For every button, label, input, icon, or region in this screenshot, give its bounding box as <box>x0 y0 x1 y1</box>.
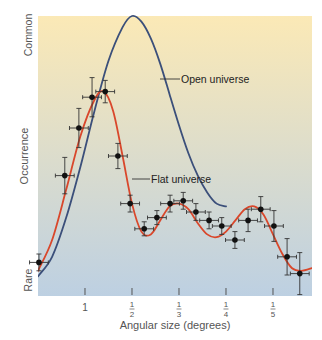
x-tick-label: 1 <box>82 302 88 313</box>
data-point-marker <box>115 153 121 159</box>
data-point-marker <box>206 218 212 224</box>
y-tick-label: Rare <box>22 268 34 291</box>
annotation-label-open-universe: Open universe <box>181 73 249 85</box>
data-point-marker <box>284 254 290 260</box>
data-point-marker <box>258 206 264 212</box>
x-axis-label: Angular size (degrees) <box>120 319 231 331</box>
y-axis-label: Occurrence <box>18 128 30 185</box>
annotation-label-flat-universe: Flat universe <box>151 173 211 185</box>
x-tick-label-numerator: 1 <box>271 300 276 309</box>
data-point-marker <box>232 237 238 243</box>
data-point-marker <box>167 201 173 207</box>
data-point-marker <box>62 173 68 179</box>
y-tick-label: Common <box>22 14 34 57</box>
data-point-marker <box>102 89 108 95</box>
data-point-marker <box>297 271 303 277</box>
data-point-marker <box>127 201 133 207</box>
plot-background <box>38 16 312 296</box>
data-point-marker <box>36 260 42 266</box>
x-tick-label-denominator: 4 <box>224 310 229 319</box>
data-point-marker <box>141 226 147 232</box>
x-tick-label-denominator: 3 <box>177 310 182 319</box>
x-tick-label-denominator: 5 <box>271 310 276 319</box>
data-point-marker <box>245 218 251 224</box>
x-tick-label-numerator: 1 <box>177 300 182 309</box>
data-point-marker <box>271 223 277 229</box>
data-point-marker <box>219 223 225 229</box>
x-tick-label-denominator: 2 <box>130 310 135 319</box>
data-point-marker <box>76 125 82 131</box>
data-point-marker <box>193 209 199 215</box>
x-tick-label-numerator: 1 <box>224 300 229 309</box>
data-point-marker <box>89 94 95 100</box>
chart: Open universeFlat universe 112131415 Rar… <box>0 0 322 340</box>
data-point-marker <box>180 198 186 204</box>
x-tick-label-numerator: 1 <box>130 300 135 309</box>
data-point-marker <box>154 215 160 221</box>
